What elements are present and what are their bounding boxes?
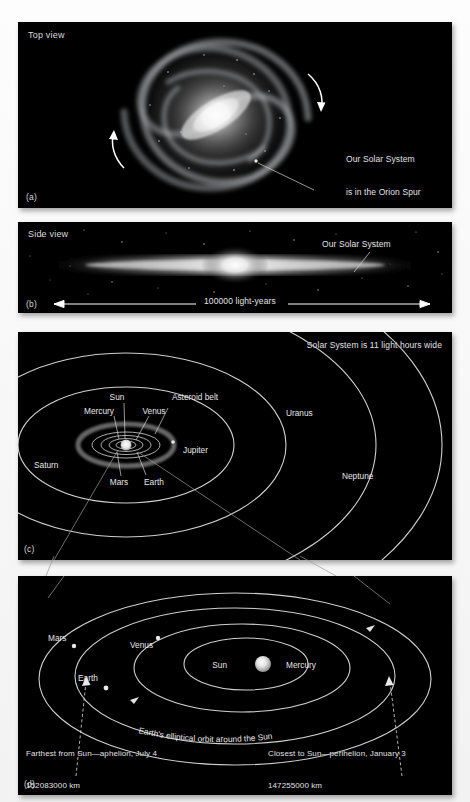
label-asteroid-belt: Asteroid belt xyxy=(172,392,219,402)
panel-a-letter: (a) xyxy=(26,192,37,202)
sun-marker xyxy=(254,159,257,162)
label-earth-d: Earth xyxy=(78,673,98,683)
sun-sphere xyxy=(121,440,132,451)
panel-d-letter: (d) xyxy=(24,779,35,789)
perihelion-line-2: 147255000 km xyxy=(268,781,406,792)
label-mars-d: Mars xyxy=(48,633,66,643)
connector-right-gap xyxy=(300,556,336,576)
panel-c-letter: (c) xyxy=(24,544,35,554)
label-mercury: Mercury xyxy=(84,406,115,416)
panel-a-top-view: Top view Our Solar System is in the Orio… xyxy=(18,22,452,208)
panel-c-to-d-connectors xyxy=(0,556,470,576)
sun-sphere-d xyxy=(255,656,271,672)
label-uranus: Uranus xyxy=(286,408,313,418)
panel-c-scale-note: Solar System is 11 light hours wide xyxy=(307,340,442,351)
label-earth: Earth xyxy=(144,477,164,487)
panel-b-side-view: Side view Our Solar System 100000 light-… xyxy=(18,222,452,313)
label-sun-d: Sun xyxy=(212,660,227,670)
panel-d-earth-orbit: Mars Venus Earth Sun Mercury Earth's ell… xyxy=(18,576,452,795)
panel-a-sun-annotation: Sun and Solar System xyxy=(348,190,452,208)
panel-a-title: Top view xyxy=(28,30,65,40)
perihelion-line-1: Closest to Sun—perihelion, January 3 xyxy=(268,749,406,760)
venus-dot-d xyxy=(156,636,160,640)
label-sun: Sun xyxy=(110,392,125,402)
panel-b-scale-label: 100000 light-years xyxy=(204,296,276,307)
aphelion-line-2: 152083000 km xyxy=(26,781,157,792)
panel-c-solar-system-scale: Sun Mercury Venus Asteroid belt Mars Ear… xyxy=(18,332,452,560)
perihelion-annotation: Closest to Sun—perihelion, January 3 147… xyxy=(268,728,406,795)
label-neptune: Neptune xyxy=(342,471,374,481)
orion-line-1: Our Solar System xyxy=(346,154,452,165)
earth-dot-d xyxy=(104,686,109,691)
panel-b-solar-system-annotation: Our Solar System xyxy=(322,239,391,250)
aphelion-line-1: Farthest from Sun—aphelion, July 4 xyxy=(26,749,157,760)
connector-left-gap xyxy=(46,556,54,576)
mars-dot-d xyxy=(72,644,76,648)
label-mars: Mars xyxy=(110,477,128,487)
aphelion-annotation: Farthest from Sun—aphelion, July 4 15208… xyxy=(26,728,157,795)
label-jupiter: Jupiter xyxy=(183,445,208,455)
jupiter-dot xyxy=(171,440,175,444)
panel-c-graphic: Sun Mercury Venus Asteroid belt Mars Ear… xyxy=(18,332,452,560)
label-mercury-d: Mercury xyxy=(286,660,317,670)
panel-b-letter: (b) xyxy=(26,299,37,309)
label-venus: Venus xyxy=(142,406,165,416)
label-venus-d: Venus xyxy=(130,640,153,650)
solar-system-figure: Top view Our Solar System is in the Orio… xyxy=(0,0,470,802)
label-saturn: Saturn xyxy=(34,460,59,470)
panel-b-title: Side view xyxy=(28,229,68,239)
